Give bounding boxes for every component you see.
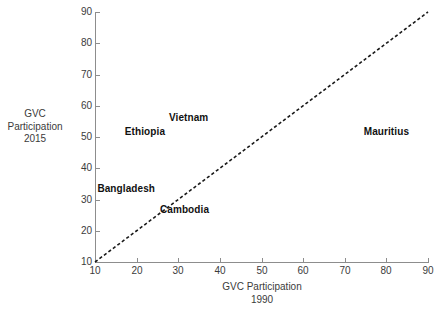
y-tick-label: 40 <box>70 163 92 173</box>
country-label-mauritius: Mauritius <box>364 126 409 138</box>
y-tick-label: 60 <box>70 101 92 111</box>
x-tick-label: 80 <box>374 266 398 276</box>
y-axis-title: GVC Participation 2015 <box>2 108 68 146</box>
country-label-cambodia: Cambodia <box>160 204 209 216</box>
y-tick-label: 80 <box>70 38 92 48</box>
x-tick-label: 90 <box>416 266 440 276</box>
x-tick-label: 30 <box>166 266 190 276</box>
country-label-vietnam: Vietnam <box>169 112 208 124</box>
country-label-ethiopia: Ethiopia <box>125 126 165 138</box>
x-tick-mark <box>428 258 429 262</box>
x-tick-label: 20 <box>125 266 149 276</box>
y-tick-label: 90 <box>70 7 92 17</box>
y-axis-title-line2: Participation <box>2 121 68 134</box>
y-tick-label: 20 <box>70 226 92 236</box>
country-label-bangladesh: Bangladesh <box>97 183 155 195</box>
x-axis-title: GVC Participation 1990 <box>95 281 429 306</box>
x-axis-title-line2: 1990 <box>95 294 429 307</box>
y-tick-label: 30 <box>70 195 92 205</box>
gvc-participation-scatter-chart: 102030405060708090102030405060708090 Eth… <box>0 0 443 309</box>
y-tick-label: 50 <box>70 132 92 142</box>
y-tick-mark <box>96 262 100 263</box>
x-axis-line <box>95 262 429 263</box>
y-tick-label: 70 <box>70 70 92 80</box>
x-tick-label: 10 <box>83 266 107 276</box>
x-axis-title-line1: GVC Participation <box>95 281 429 294</box>
x-tick-label: 50 <box>250 266 274 276</box>
y-axis-title-line1: GVC <box>2 108 68 121</box>
x-tick-label: 60 <box>291 266 315 276</box>
x-tick-label: 70 <box>333 266 357 276</box>
plot-area: EthiopiaVietnamBangladeshCambodiaMauriti… <box>95 12 428 262</box>
x-tick-label: 40 <box>208 266 232 276</box>
y-axis-title-line3: 2015 <box>2 133 68 146</box>
